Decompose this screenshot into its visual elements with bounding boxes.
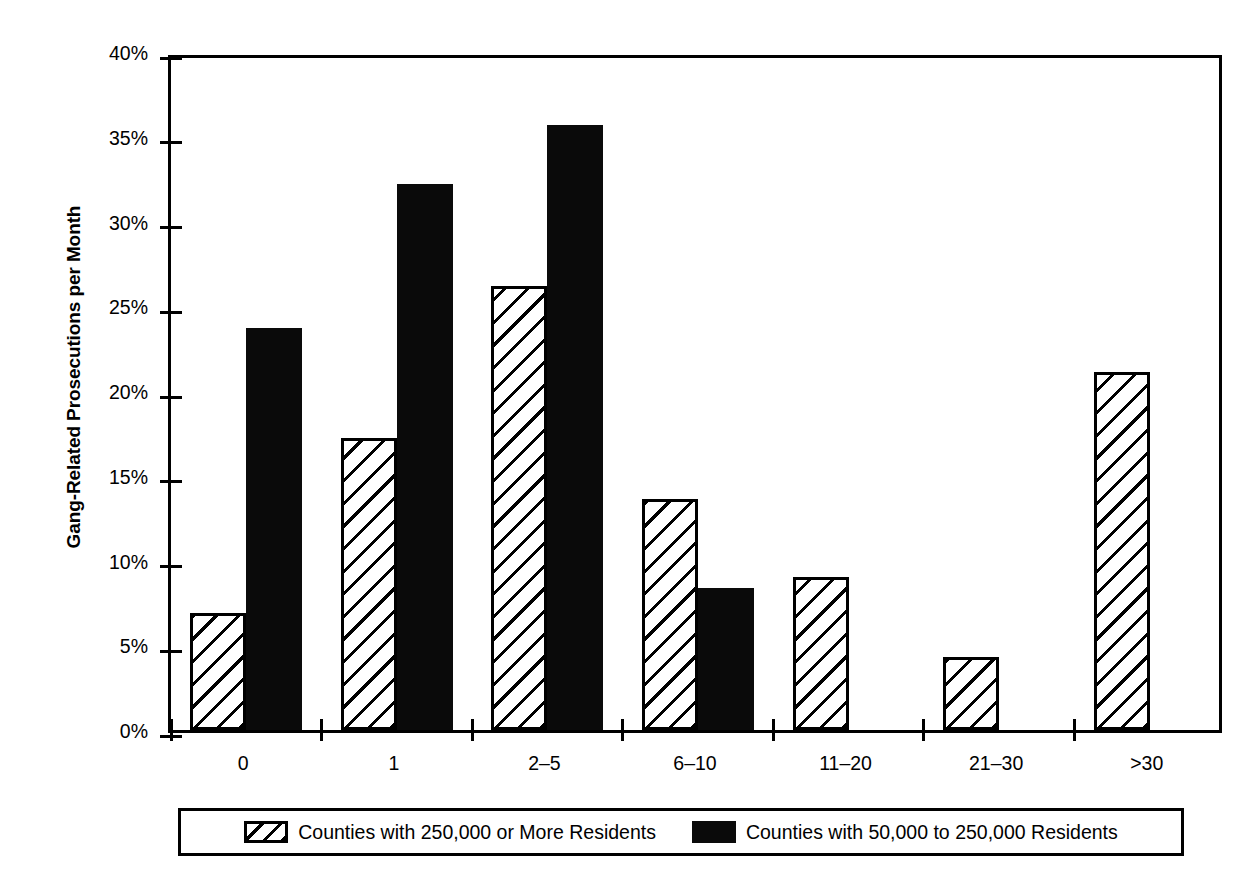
y-axis-tick-label: 25% bbox=[38, 296, 148, 319]
y-axis-tick-label: 35% bbox=[38, 127, 148, 150]
bar-series-0-category-4 bbox=[793, 577, 849, 730]
x-axis-tick bbox=[772, 719, 775, 741]
x-axis-tick bbox=[922, 719, 925, 741]
y-axis-title: Gang-Related Prosecutions per Month bbox=[63, 67, 85, 687]
plot-inner bbox=[171, 58, 1219, 730]
y-axis-tick-label: 20% bbox=[38, 381, 148, 404]
bar-series-1-category-1 bbox=[397, 184, 453, 730]
chart-legend: Counties with 250,000 or More Residents … bbox=[178, 808, 1184, 856]
bar-chart-figure: Gang-Related Prosecutions per Month 0%5%… bbox=[0, 0, 1251, 888]
x-axis-tick-label: >30 bbox=[1067, 752, 1227, 775]
y-axis-tick bbox=[160, 565, 182, 568]
y-axis-tick-label: 15% bbox=[38, 466, 148, 489]
y-axis-tick bbox=[160, 650, 182, 653]
bar-series-0-category-0 bbox=[190, 613, 246, 730]
x-axis-tick-label: 6–10 bbox=[615, 752, 775, 775]
bar-series-1-category-3 bbox=[698, 588, 754, 730]
x-axis-tick-label: 2–5 bbox=[464, 752, 624, 775]
bar-series-1-category-0 bbox=[246, 328, 302, 730]
x-axis-tick-label: 21–30 bbox=[916, 752, 1076, 775]
y-axis-tick bbox=[160, 396, 182, 399]
y-axis-tick-label: 40% bbox=[38, 42, 148, 65]
diagonal-hatch-swatch-icon bbox=[244, 821, 288, 843]
bar-series-1-category-2 bbox=[547, 125, 603, 730]
x-axis-tick-label: 11–20 bbox=[766, 752, 926, 775]
y-axis-tick-label: 0% bbox=[38, 720, 148, 743]
y-axis-tick-label: 5% bbox=[38, 635, 148, 658]
bar-series-0-category-2 bbox=[491, 286, 547, 730]
x-axis-tick bbox=[320, 719, 323, 741]
legend-label-0: Counties with 250,000 or More Residents bbox=[298, 821, 656, 844]
bar-series-0-category-6 bbox=[1094, 372, 1150, 730]
legend-item-1: Counties with 50,000 to 250,000 Resident… bbox=[692, 821, 1118, 844]
x-axis-tick bbox=[170, 719, 173, 741]
y-axis-tick-label: 10% bbox=[38, 551, 148, 574]
bar-series-0-category-3 bbox=[642, 499, 698, 730]
x-axis-tick bbox=[471, 719, 474, 741]
y-axis-tick bbox=[160, 226, 182, 229]
x-axis-tick bbox=[621, 719, 624, 741]
bar-series-0-category-1 bbox=[341, 438, 397, 730]
y-axis-tick bbox=[160, 311, 182, 314]
x-axis-tick bbox=[1073, 719, 1076, 741]
legend-item-0: Counties with 250,000 or More Residents bbox=[244, 821, 656, 844]
x-axis-tick-label: 0 bbox=[163, 752, 323, 775]
y-axis-tick-label: 30% bbox=[38, 212, 148, 235]
y-axis-tick bbox=[160, 480, 182, 483]
plot-area bbox=[168, 55, 1222, 733]
y-axis-tick bbox=[160, 57, 182, 60]
legend-label-1: Counties with 50,000 to 250,000 Resident… bbox=[746, 821, 1118, 844]
x-axis-tick-label: 1 bbox=[314, 752, 474, 775]
y-axis-tick bbox=[160, 141, 182, 144]
bar-series-0-category-5 bbox=[943, 657, 999, 730]
solid-black-swatch-icon bbox=[692, 821, 736, 843]
